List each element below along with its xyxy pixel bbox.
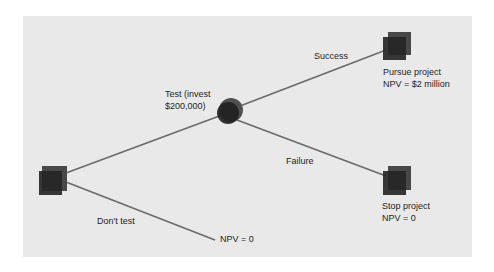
outcome-stop-label: Stop project NPV = 0 <box>382 200 430 224</box>
branch-dont-test-line <box>66 182 215 240</box>
branch-test-line <box>66 115 222 173</box>
outcome-stop-value: NPV = 0 <box>382 212 430 224</box>
terminal-dont-test-value: NPV = 0 <box>220 233 254 245</box>
branch-test-label-line2: $200,000) <box>165 100 211 112</box>
outcome-pursue-title: Pursue project <box>383 66 450 78</box>
branch-success-label: Success <box>314 50 348 62</box>
branch-test-label-line1: Test (invest <box>165 88 211 100</box>
branch-dont-test-label: Don't test <box>97 215 135 227</box>
branch-test-label: Test (invest $200,000) <box>165 88 211 112</box>
decision-node-icon <box>39 166 67 195</box>
outcome-stop-title: Stop project <box>382 200 430 212</box>
outcome-pursue-value: NPV = $2 million <box>383 78 450 90</box>
decision-tree-graphic <box>0 0 494 272</box>
outcome-node-stop-icon <box>383 166 411 195</box>
branch-failure-line <box>237 120 386 176</box>
outcome-pursue-label: Pursue project NPV = $2 million <box>383 66 450 90</box>
branch-failure-label: Failure <box>286 155 314 167</box>
outcome-node-pursue-icon <box>383 32 411 60</box>
branch-success-line <box>240 50 386 106</box>
